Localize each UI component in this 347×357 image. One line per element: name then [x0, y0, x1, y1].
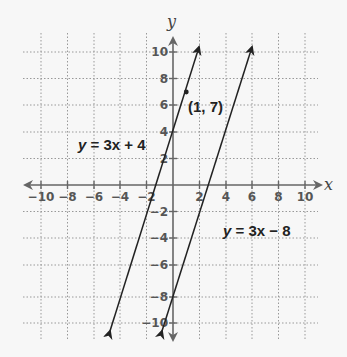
- line-y-3x-minus-8: [162, 47, 252, 331]
- svg-text:8: 8: [274, 190, 282, 204]
- svg-text:6: 6: [248, 190, 256, 204]
- x-tick-labels: −10 −8 −6 −4 −2 2 4 6 8 10: [28, 190, 314, 204]
- svg-text:−2: −2: [150, 205, 168, 219]
- point-1-7: [184, 90, 189, 95]
- svg-text:−8: −8: [58, 190, 76, 204]
- y-axis-label: y: [166, 12, 177, 31]
- equation-label-1: y = 3x + 4: [77, 136, 146, 153]
- svg-text:−6: −6: [85, 190, 103, 204]
- svg-text:4: 4: [222, 190, 230, 204]
- coordinate-plane: x y −10 −8 −6 −4 −2 2 4 6 8 10 10 8 6 4 …: [0, 0, 347, 357]
- svg-text:−4: −4: [150, 231, 168, 245]
- point-label: (1, 7): [188, 98, 223, 115]
- line-y-3x-plus-4: [110, 47, 199, 331]
- svg-text:−4: −4: [111, 190, 129, 204]
- svg-text:6: 6: [160, 98, 168, 112]
- svg-text:−10: −10: [28, 190, 55, 204]
- svg-text:10: 10: [297, 190, 314, 204]
- x-axis-label: x: [324, 175, 333, 194]
- svg-text:−8: −8: [150, 290, 168, 304]
- svg-text:4: 4: [160, 125, 168, 139]
- svg-text:10: 10: [151, 45, 168, 59]
- svg-text:−6: −6: [150, 258, 168, 272]
- svg-text:8: 8: [160, 72, 168, 86]
- equation-label-2: y = 3x − 8: [222, 222, 291, 239]
